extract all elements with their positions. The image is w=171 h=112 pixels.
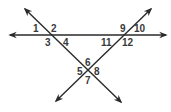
angle-label-2: 2 (51, 23, 57, 34)
angle-label-10: 10 (134, 23, 146, 34)
angle-label-3: 3 (45, 37, 51, 48)
descending-line (25, 9, 121, 102)
angle-label-8: 8 (94, 66, 100, 77)
angle-label-9: 9 (120, 23, 126, 34)
angle-label-4: 4 (63, 37, 69, 48)
angle-label-7: 7 (85, 75, 91, 86)
angle-label-1: 1 (33, 23, 39, 34)
angle-label-5: 5 (77, 66, 83, 77)
angle-label-6: 6 (85, 57, 91, 68)
intersecting-lines-diagram: 1 2 3 4 9 10 11 12 6 5 8 7 (0, 0, 171, 112)
angle-label-12: 12 (122, 37, 134, 48)
angle-label-11: 11 (101, 37, 112, 48)
